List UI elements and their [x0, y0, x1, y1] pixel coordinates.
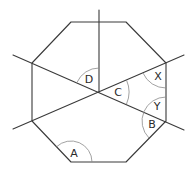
label-x: X: [154, 70, 162, 83]
label-b: B: [148, 118, 156, 131]
label-d: D: [85, 73, 93, 86]
octagon-diagram: D C X Y B A: [0, 0, 193, 170]
label-a: A: [70, 147, 78, 160]
angle-arc-c: [127, 80, 130, 104]
label-y: Y: [153, 100, 161, 113]
label-c: C: [114, 86, 122, 99]
